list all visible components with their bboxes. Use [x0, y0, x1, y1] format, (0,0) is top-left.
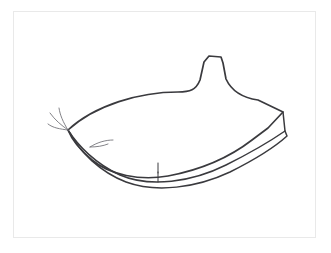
lower-layer-outline — [68, 112, 285, 182]
body-outline — [68, 56, 283, 178]
drawing-canvas: Outline sketch of an elongated pod-like … — [0, 0, 331, 253]
line-drawing — [0, 0, 331, 253]
lower-layer-lower-edge — [70, 131, 287, 188]
tendril-middle-icon — [50, 113, 68, 130]
